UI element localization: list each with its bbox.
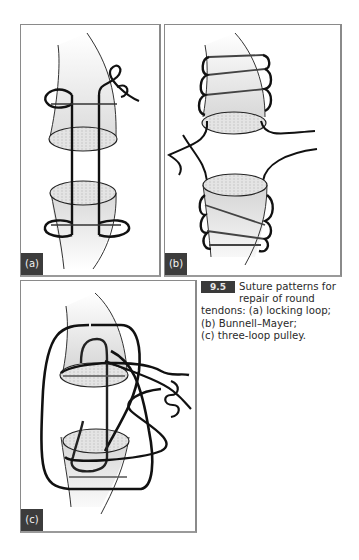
caption-line-4: (b) Bunnell–Mayer;	[201, 318, 351, 330]
panel-label-c: (c)	[21, 509, 43, 531]
caption-line-3: tendons: (a) locking loop;	[201, 305, 351, 317]
three-loop-pulley-illustration	[21, 281, 197, 533]
figure-panel-a: (a)	[20, 24, 161, 277]
locking-loop-illustration	[21, 25, 161, 277]
panel-label-a: (a)	[21, 253, 43, 275]
caption-line-1: Suture patterns for	[239, 281, 336, 292]
caption-line-5: (c) three-loop pulley.	[201, 330, 351, 342]
panel-label-b: (b)	[165, 253, 187, 275]
figure-number-badge: 9.5	[201, 281, 235, 293]
caption-line-2: repair of round	[201, 293, 351, 305]
figure-panel-b: (b)	[164, 24, 342, 277]
figure-caption: 9.5Suture patterns for repair of round t…	[201, 281, 351, 342]
figure-panel-c: (c)	[20, 280, 197, 533]
bunnell-mayer-illustration	[165, 25, 342, 277]
